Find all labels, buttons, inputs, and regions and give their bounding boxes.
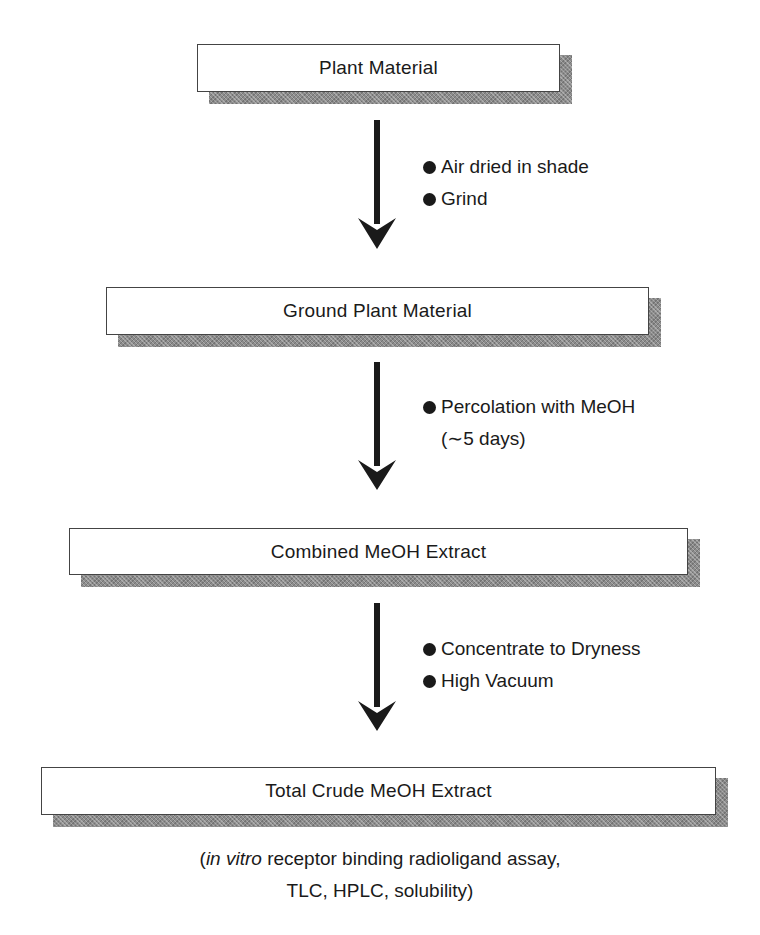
step-list-1: Air dried in shade Grind bbox=[423, 151, 589, 215]
bullet-icon bbox=[423, 643, 436, 656]
node-label: Ground Plant Material bbox=[106, 287, 649, 335]
step-item: Air dried in shade bbox=[423, 151, 589, 183]
assay-footnote: (in vitro receptor binding radioligand a… bbox=[0, 843, 760, 907]
step-text: Grind bbox=[441, 183, 487, 215]
step-item: High Vacuum bbox=[423, 665, 641, 697]
italic-in-vitro: in vitro bbox=[206, 848, 262, 869]
step-list-2: Percolation with MeOH (∼5 days) bbox=[423, 391, 635, 455]
footnote-text: receptor binding radioligand assay, bbox=[262, 848, 561, 869]
flow-node-ground-plant-material: Ground Plant Material bbox=[106, 287, 649, 335]
footnote-line-1: (in vitro receptor binding radioligand a… bbox=[0, 843, 760, 875]
node-label: Total Crude MeOH Extract bbox=[41, 767, 716, 815]
flow-node-plant-material: Plant Material bbox=[197, 44, 560, 92]
step-list-3: Concentrate to Dryness High Vacuum bbox=[423, 633, 641, 697]
down-arrow-icon bbox=[356, 601, 398, 733]
node-label: Plant Material bbox=[197, 44, 560, 92]
flow-node-combined-meoh-extract: Combined MeOH Extract bbox=[69, 528, 688, 575]
step-text: Concentrate to Dryness bbox=[441, 633, 641, 665]
bullet-icon bbox=[423, 193, 436, 206]
bullet-icon bbox=[423, 675, 436, 688]
bullet-icon bbox=[423, 161, 436, 174]
step-text: Air dried in shade bbox=[441, 151, 589, 183]
down-arrow-icon bbox=[356, 360, 398, 492]
bullet-icon bbox=[423, 401, 436, 414]
node-label: Combined MeOH Extract bbox=[69, 528, 688, 575]
step-text: High Vacuum bbox=[441, 665, 554, 697]
footnote-line-2: TLC, HPLC, solubility) bbox=[0, 875, 760, 907]
down-arrow-icon bbox=[356, 118, 398, 250]
step-text: Percolation with MeOH bbox=[441, 391, 635, 423]
step-item: Grind bbox=[423, 183, 589, 215]
step-item: Percolation with MeOH bbox=[423, 391, 635, 423]
step-item: Concentrate to Dryness bbox=[423, 633, 641, 665]
step-detail: (∼5 days) bbox=[423, 423, 635, 455]
flow-node-total-crude-meoh-extract: Total Crude MeOH Extract bbox=[41, 767, 716, 815]
